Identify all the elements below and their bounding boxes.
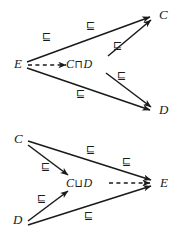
- union-left-operand: C: [66, 176, 74, 190]
- node-label-C-upper: C: [159, 8, 168, 21]
- edge-label-subsumption-upper-2: ⊑: [86, 20, 95, 31]
- edge-label-subsumption-upper-3: ⊑: [113, 40, 122, 51]
- union-operator-icon: ⊔: [74, 177, 84, 190]
- node-label-C-lower: C: [14, 132, 23, 145]
- node-label-E-lower: E: [160, 176, 168, 189]
- edge-label-subsumption-upper-5: ⊑: [76, 88, 85, 99]
- edge-D-to-union: [28, 191, 68, 221]
- node-label-union: C⊔D: [66, 177, 92, 189]
- node-label-D-upper: D: [159, 103, 168, 116]
- concept-right-operand: D: [84, 57, 93, 71]
- node-label-intersection: C⊓D: [66, 58, 92, 70]
- concept-left-operand: C: [66, 57, 74, 71]
- intersection-operator-icon: ⊓: [74, 58, 84, 71]
- edge-label-subsumption-lower-4: ⊑: [37, 193, 46, 204]
- node-label-E-upper: E: [14, 57, 22, 70]
- edge-label-subsumption-lower-5: ⊑: [84, 210, 93, 221]
- union-right-operand: D: [84, 176, 93, 190]
- edge-E-to-D: [27, 68, 150, 110]
- edge-label-subsumption-lower-2: ⊑: [122, 156, 131, 167]
- diagram-lower-union: E (dashed) --> C D C⊔D E ⊑ ⊑ ⊑ ⊑ ⊑: [0, 117, 178, 237]
- diagram-upper-intersection: C⊓D (dashed) --> E C⊓D C D ⊑ ⊑ ⊑ ⊑ ⊑: [0, 0, 178, 120]
- node-label-D-lower: D: [13, 213, 22, 226]
- edge-label-subsumption-lower-1: ⊑: [86, 144, 95, 155]
- edge-label-subsumption-upper-4: ⊑: [117, 70, 126, 81]
- edge-label-subsumption-lower-3: ⊑: [41, 161, 50, 172]
- subsumption-diagram-figure: C⊓D (dashed) --> E C⊓D C D ⊑ ⊑ ⊑ ⊑ ⊑: [0, 0, 178, 237]
- edge-label-subsumption-upper-1: ⊑: [42, 31, 51, 42]
